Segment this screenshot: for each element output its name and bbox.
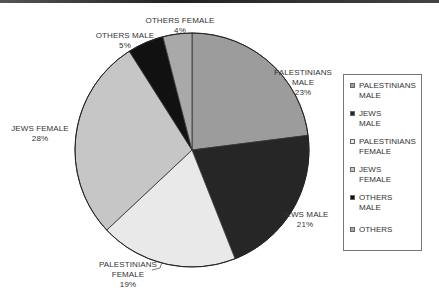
label-palestinians-male: PALESTINIANS MALE 23% xyxy=(268,68,338,98)
label-pct: 4% xyxy=(140,26,220,36)
legend-label: OTHERS MALE xyxy=(359,193,429,213)
legend-label: JEWS MALE xyxy=(359,109,429,129)
legend-swatch xyxy=(350,227,355,232)
legend: PALESTINIANS MALE JEWS MALE PALESTINIANS… xyxy=(343,74,422,251)
legend-swatch xyxy=(350,111,355,116)
label-name: JEWS FEMALE xyxy=(10,124,70,134)
legend-label: PALESTINIANS MALE xyxy=(359,81,429,101)
label-name: JEWS MALE xyxy=(275,210,335,220)
label-pct: 21% xyxy=(275,220,335,230)
label-jews-female: JEWS FEMALE 28% xyxy=(10,124,70,144)
legend-swatch xyxy=(350,83,355,88)
label-name: PALESTINIANS MALE xyxy=(268,68,338,88)
label-others-female: OTHERS FEMALE 4% xyxy=(140,16,220,36)
legend-swatch xyxy=(350,195,355,200)
label-palestinians-female: PALESTINIANS FEMALE 19% xyxy=(93,260,163,290)
label-pct: 23% xyxy=(268,88,338,98)
legend-swatch xyxy=(350,139,355,144)
label-name: PALESTINIANS FEMALE xyxy=(93,260,163,280)
legend-label: JEWS FEMALE xyxy=(359,165,429,185)
label-jews-male: JEWS MALE 21% xyxy=(275,210,335,230)
label-pct: 28% xyxy=(10,134,70,144)
legend-label: OTHERS xyxy=(359,225,429,235)
label-pct: 5% xyxy=(95,41,155,51)
legend-swatch xyxy=(350,167,355,172)
legend-label: PALESTINIANS FEMALE xyxy=(359,137,429,157)
label-pct: 19% xyxy=(93,280,163,290)
label-name: OTHERS FEMALE xyxy=(140,16,220,26)
